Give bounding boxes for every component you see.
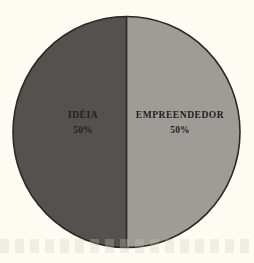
pie-slice-label-empreendedor: EMPREENDEDOR — [136, 110, 224, 120]
pie-slice-idea[interactable] — [13, 17, 126, 248]
pie-slice-value-empreendedor: 50% — [170, 125, 190, 135]
pie-chart-figure: IDÉIA 50% EMPREENDEDOR 50% — [0, 0, 254, 263]
pie-chart: IDÉIA 50% EMPREENDEDOR 50% — [0, 0, 254, 263]
pie-slice-label-idea: IDÉIA — [68, 109, 98, 120]
pie-slice-value-idea: 50% — [73, 125, 93, 135]
